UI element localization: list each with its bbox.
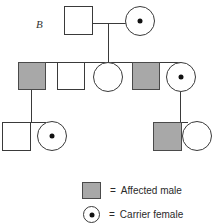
individual-i-1-unaffected-male [64,6,93,35]
individual-iii-4-unaffected-female [182,121,212,151]
individual-iii-3-affected-male [153,122,182,151]
panel-label: B [36,18,43,30]
legend-equals-sign: = [109,209,115,220]
legend-item-carrier-female: = Carrier female [83,206,183,223]
carrier-dot-icon [89,212,94,217]
individual-ii-5-carrier-female [166,62,196,92]
legend-label-carrier-female: Carrier female [120,209,183,220]
individual-iii-2-carrier-female [37,121,67,151]
descent-line-ii-1-to-iii-left [31,90,32,122]
affected-male-swatch-icon [82,182,101,199]
carrier-female-swatch-icon [83,206,100,223]
descent-line-ii-5-to-iii-right [180,92,181,122]
legend-equals-sign: = [110,185,116,196]
descent-line-generation-i-to-ii [108,23,109,63]
individual-ii-4-affected-male [132,62,160,90]
legend-label-affected-male: Affected male [121,185,182,196]
carrier-dot-icon [179,75,184,80]
individual-ii-1-affected-male [18,62,46,90]
individual-ii-2-unaffected-male [57,62,85,90]
individual-ii-3-unaffected-female [93,62,123,92]
individual-iii-1-unaffected-male [2,122,31,151]
carrier-dot-icon [138,19,143,24]
legend-item-affected-male: = Affected male [82,182,182,199]
pedigree-chart: B = Affected male [0,0,213,224]
individual-i-2-carrier-female [125,6,155,36]
carrier-dot-icon [50,134,55,139]
